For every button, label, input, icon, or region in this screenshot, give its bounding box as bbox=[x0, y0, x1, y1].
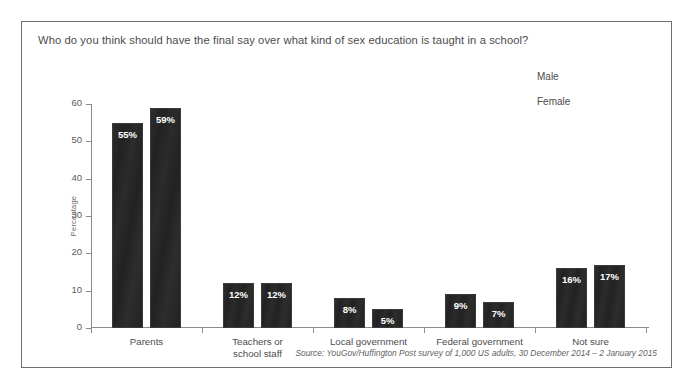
source-note: Source: YouGov/Huffington Post survey of… bbox=[295, 348, 657, 358]
y-tick-30: 30 bbox=[86, 216, 91, 217]
y-tick-10: 10 bbox=[86, 291, 91, 292]
y-tick-label-30: 30 bbox=[71, 209, 82, 220]
x-tick-5 bbox=[646, 328, 647, 333]
y-tick-label-0: 0 bbox=[77, 321, 82, 332]
bar-not-sure-male[interactable]: 16% bbox=[556, 268, 587, 328]
bar-not-sure-female[interactable]: 17% bbox=[594, 265, 625, 329]
bar-value-federal-government-male: 9% bbox=[446, 300, 475, 311]
bar-group-teachers: 12% 12% Teachers or school staff bbox=[223, 104, 292, 328]
legend-swatch-male bbox=[509, 69, 526, 84]
bar-value-parents-male: 55% bbox=[113, 129, 142, 140]
bar-group-parents: 55% 59% Parents bbox=[112, 104, 181, 328]
bar-local-government-male[interactable]: 8% bbox=[334, 298, 365, 328]
y-tick-20: 20 bbox=[86, 253, 91, 254]
bar-teachers-female[interactable]: 12% bbox=[261, 283, 292, 328]
y-tick-label-40: 40 bbox=[71, 172, 82, 183]
bar-value-local-government-male: 8% bbox=[335, 304, 364, 315]
y-tick-label-60: 60 bbox=[71, 97, 82, 108]
bar-value-not-sure-male: 16% bbox=[557, 274, 586, 285]
plot-area: Percentage 0 10 20 30 40 50 60 bbox=[91, 104, 649, 328]
bar-local-government-female[interactable]: 5% bbox=[372, 309, 403, 328]
bar-value-local-government-female: 5% bbox=[373, 315, 402, 326]
bar-group-local-government: 8% 5% Local government bbox=[334, 104, 403, 328]
x-tick-2 bbox=[313, 328, 314, 333]
y-tick-60: 60 bbox=[86, 104, 91, 105]
chart-title: Who do you think should have the final s… bbox=[38, 34, 638, 46]
y-tick-label-50: 50 bbox=[71, 134, 82, 145]
legend-label-male: Male bbox=[537, 71, 559, 82]
bar-group-federal-government: 9% 7% Federal government bbox=[445, 104, 514, 328]
bar-federal-government-male[interactable]: 9% bbox=[445, 294, 476, 328]
y-axis-line bbox=[91, 104, 92, 328]
chart-figure: Who do you think should have the final s… bbox=[21, 21, 672, 368]
legend-item-male: Male bbox=[509, 65, 629, 87]
bar-value-teachers-female: 12% bbox=[262, 289, 291, 300]
bar-group-not-sure: 16% 17% Not sure bbox=[556, 104, 625, 328]
x-label-not-sure: Not sure bbox=[521, 336, 661, 348]
x-tick-1 bbox=[202, 328, 203, 333]
x-tick-4 bbox=[535, 328, 536, 333]
y-tick-label-20: 20 bbox=[71, 246, 82, 257]
bar-federal-government-female[interactable]: 7% bbox=[483, 302, 514, 328]
bar-teachers-male[interactable]: 12% bbox=[223, 283, 254, 328]
bar-parents-male[interactable]: 55% bbox=[112, 123, 143, 328]
y-tick-label-10: 10 bbox=[71, 284, 82, 295]
bar-value-not-sure-female: 17% bbox=[595, 271, 624, 282]
x-tick-0 bbox=[91, 328, 92, 333]
bar-parents-female[interactable]: 59% bbox=[150, 108, 181, 328]
bar-value-parents-female: 59% bbox=[151, 114, 180, 125]
bar-value-federal-government-female: 7% bbox=[484, 308, 513, 319]
bar-value-teachers-male: 12% bbox=[224, 289, 253, 300]
x-tick-3 bbox=[424, 328, 425, 333]
y-tick-50: 50 bbox=[86, 141, 91, 142]
y-tick-40: 40 bbox=[86, 179, 91, 180]
